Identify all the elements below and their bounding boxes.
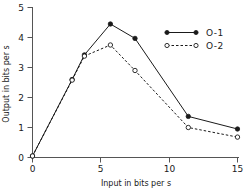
x-tick-label-15: 15 bbox=[232, 164, 243, 174]
line-chart: 0 1 2 3 4 5 0 5 10 15 Input in bits per … bbox=[0, 0, 248, 190]
data-point bbox=[133, 36, 137, 40]
data-point bbox=[30, 154, 34, 158]
x-tick-label-5: 5 bbox=[98, 164, 104, 174]
y-axis-ticks bbox=[28, 8, 33, 158]
data-point bbox=[235, 127, 239, 131]
legend-label-o-2: O-2 bbox=[206, 41, 224, 51]
legend-marker-o-1-start bbox=[165, 30, 169, 34]
data-point bbox=[108, 43, 112, 47]
series-line-o-2 bbox=[33, 45, 238, 156]
chart-figure: 0 1 2 3 4 5 0 5 10 15 Input in bits per … bbox=[0, 0, 248, 190]
data-point bbox=[108, 22, 112, 26]
data-point bbox=[82, 54, 86, 58]
legend-marker-o-1-end bbox=[194, 30, 198, 34]
y-axis-title: Output in bits per s bbox=[2, 45, 11, 122]
data-point bbox=[133, 68, 137, 72]
data-point bbox=[235, 135, 239, 139]
x-tick-label-10: 10 bbox=[164, 164, 176, 174]
legend-entry-o-2: O-2 bbox=[165, 41, 224, 51]
y-tick-label-1: 1 bbox=[18, 123, 24, 133]
chart-legend: O-1 O-2 bbox=[165, 28, 224, 51]
x-axis-tick-labels: 0 5 10 15 bbox=[30, 164, 244, 174]
y-tick-label-4: 4 bbox=[18, 33, 24, 43]
y-axis-tick-labels: 0 1 2 3 4 5 bbox=[18, 3, 24, 163]
y-tick-label-3: 3 bbox=[18, 63, 24, 73]
x-axis-title: Input in bits per s bbox=[101, 179, 171, 188]
data-point bbox=[186, 114, 190, 118]
legend-label-o-1: O-1 bbox=[206, 28, 224, 38]
x-axis-ticks bbox=[33, 158, 238, 163]
y-tick-label-0: 0 bbox=[18, 153, 24, 163]
data-point bbox=[186, 125, 190, 129]
y-tick-label-5: 5 bbox=[18, 3, 24, 13]
x-tick-label-0: 0 bbox=[30, 164, 36, 174]
y-tick-label-2: 2 bbox=[18, 93, 24, 103]
data-point bbox=[70, 78, 74, 82]
legend-marker-o-2-start bbox=[165, 43, 169, 47]
legend-entry-o-1: O-1 bbox=[165, 28, 224, 38]
legend-marker-o-2-end bbox=[194, 43, 198, 47]
